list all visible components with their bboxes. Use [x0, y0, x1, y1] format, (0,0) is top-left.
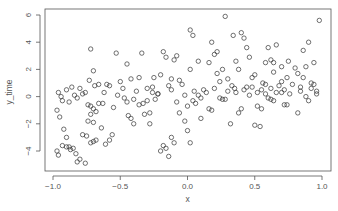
- data-point: [242, 36, 246, 40]
- data-point: [239, 107, 243, 111]
- data-point: [239, 31, 243, 35]
- data-point: [255, 104, 259, 108]
- data-point: [148, 122, 152, 126]
- data-point: [59, 94, 63, 98]
- data-point: [228, 122, 232, 126]
- data-point: [161, 50, 165, 54]
- data-point: [64, 145, 68, 149]
- data-point: [261, 81, 265, 85]
- y-axis: −4−20246: [24, 12, 40, 155]
- data-point: [293, 66, 297, 70]
- data-point: [215, 50, 219, 54]
- data-point: [158, 73, 162, 77]
- data-point: [212, 86, 216, 90]
- data-point: [64, 135, 68, 139]
- data-point: [125, 62, 129, 66]
- data-point: [269, 58, 273, 62]
- data-point: [164, 146, 168, 150]
- data-point: [60, 99, 64, 103]
- data-point: [314, 89, 318, 93]
- data-point: [64, 88, 68, 92]
- data-point: [306, 40, 310, 44]
- data-point: [83, 90, 87, 94]
- data-point: [279, 65, 283, 69]
- data-point: [255, 90, 259, 94]
- data-point: [55, 149, 59, 153]
- data-point: [97, 101, 101, 105]
- scatter-chart: −1.0−0.50.00.51.0 −4−20246 x y_time: [0, 0, 338, 211]
- data-point: [210, 40, 214, 44]
- data-point: [183, 93, 187, 97]
- data-point: [167, 154, 171, 158]
- data-point: [164, 55, 168, 59]
- data-point: [266, 45, 270, 49]
- data-point: [83, 161, 87, 165]
- data-point: [91, 139, 95, 143]
- y-tick-label: 6: [24, 12, 33, 17]
- data-point: [286, 59, 290, 63]
- data-point: [199, 96, 203, 100]
- data-point: [196, 59, 200, 63]
- data-point: [129, 116, 133, 120]
- data-point: [245, 85, 249, 89]
- data-point: [269, 86, 273, 90]
- data-point: [141, 101, 145, 105]
- data-point: [245, 45, 249, 49]
- data-point: [250, 75, 254, 79]
- data-point: [196, 93, 200, 97]
- data-point: [91, 69, 95, 73]
- data-point: [188, 141, 192, 145]
- data-point: [215, 71, 219, 75]
- data-point: [68, 147, 72, 151]
- data-point: [220, 97, 224, 101]
- data-point: [158, 149, 162, 153]
- data-point: [75, 160, 79, 164]
- data-point: [102, 90, 106, 94]
- data-point: [247, 93, 251, 97]
- data-point: [55, 108, 59, 112]
- data-point: [153, 97, 157, 101]
- data-point: [97, 82, 101, 86]
- data-point: [258, 124, 262, 128]
- data-point: [107, 84, 111, 88]
- data-point: [86, 103, 90, 107]
- data-point: [309, 81, 313, 85]
- data-point: [271, 60, 275, 64]
- data-point: [177, 78, 181, 82]
- data-point: [140, 51, 144, 55]
- data-point: [142, 112, 146, 116]
- data-point: [150, 85, 154, 89]
- data-point: [91, 107, 95, 111]
- data-point: [266, 96, 270, 100]
- data-point: [169, 77, 173, 81]
- data-point: [110, 133, 114, 137]
- data-point: [271, 70, 275, 74]
- data-point: [74, 152, 78, 156]
- data-point: [242, 88, 246, 92]
- data-point: [129, 77, 133, 81]
- data-point: [263, 82, 267, 86]
- data-point: [188, 67, 192, 71]
- data-point: [87, 78, 91, 82]
- data-point: [269, 97, 273, 101]
- data-point: [121, 86, 125, 90]
- data-point: [137, 75, 141, 79]
- data-point: [99, 126, 103, 130]
- data-point: [72, 93, 76, 97]
- data-point: [309, 86, 313, 90]
- data-point: [125, 100, 129, 104]
- data-point: [152, 75, 156, 79]
- data-point: [191, 33, 195, 37]
- data-point: [78, 86, 82, 90]
- data-point: [210, 108, 214, 112]
- data-point: [70, 85, 74, 89]
- data-point: [80, 92, 84, 96]
- data-point: [94, 138, 98, 142]
- x-axis: −1.0−0.50.00.51.0: [45, 176, 328, 191]
- x-tick-label: 0.5: [249, 182, 261, 191]
- data-point: [105, 82, 109, 86]
- data-point: [288, 92, 292, 96]
- data-point: [71, 146, 75, 150]
- x-tick-label: 1.0: [316, 182, 328, 191]
- data-point: [236, 67, 240, 71]
